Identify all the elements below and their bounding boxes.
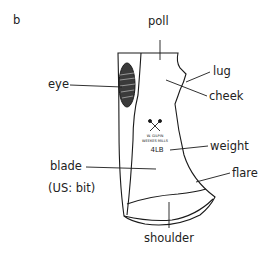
crossed-axes-stamp-icon <box>149 120 162 132</box>
label-cheek: cheek <box>209 91 243 103</box>
svg-text:WEEKES MILLS: WEEKES MILLS <box>142 139 169 143</box>
label-shoulder: shoulder <box>144 233 194 245</box>
label-eye: eye <box>48 79 69 91</box>
shoulder-band <box>127 189 206 204</box>
label-blade: blade <box>50 161 82 173</box>
label-poll: poll <box>148 16 169 28</box>
svg-text:W. GILPIN: W. GILPIN <box>147 134 164 138</box>
label-lug: lug <box>213 66 231 78</box>
label-weight: weight <box>210 141 249 153</box>
axe-head-drawing: W. GILPIN WEEKES MILLS 4LB <box>0 0 273 267</box>
panel-label: b <box>13 15 20 27</box>
label-flare: flare <box>232 168 258 180</box>
svg-text:4LB: 4LB <box>150 146 163 154</box>
label-blade-us: (US: bit) <box>48 183 95 195</box>
